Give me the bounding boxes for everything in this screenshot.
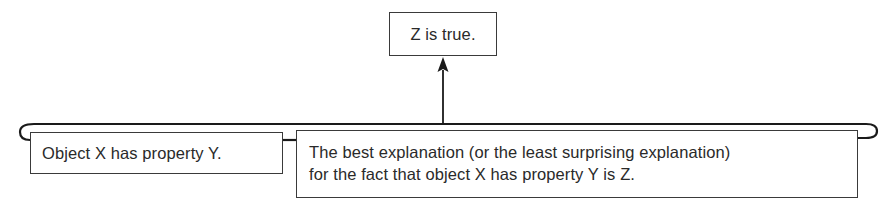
conclusion-text: Z is true. xyxy=(410,23,475,45)
support-arrow-head-icon xyxy=(438,57,449,72)
conclusion-box: Z is true. xyxy=(389,12,497,56)
premise-text-line: The best explanation (or the least surpr… xyxy=(309,141,857,163)
premise-box-best-explanation: The best explanation (or the least surpr… xyxy=(296,130,858,198)
premise-text: Object X has property Y. xyxy=(42,142,222,164)
premise-text-line: for the fact that object X has property … xyxy=(309,163,857,185)
premise-box-observation: Object X has property Y. xyxy=(30,132,283,174)
